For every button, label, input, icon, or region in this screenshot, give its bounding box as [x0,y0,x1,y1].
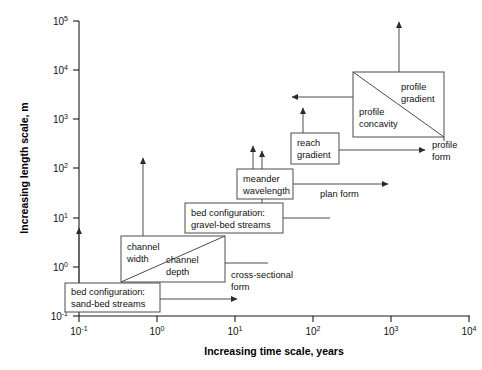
y-tick-exp-1: 4 [64,64,68,71]
x-tick-exp-0: -1 [81,325,87,332]
box-profile-gradient-line1: profile [401,82,426,92]
svg-text:104: 104 [53,64,68,76]
y-tick-exp-4: 1 [64,212,68,219]
svg-text:102: 102 [53,162,68,174]
box-sand-bed-streams[interactable]: bed configuration: sand-bed streams [65,283,160,312]
y-tick-exp-5: 0 [64,261,68,268]
box-gravel-bed-streams-line2: gravel-bed streams [191,220,271,230]
y-tick-base-6: 10 [51,311,63,322]
svg-text:100: 100 [149,325,164,337]
figure-container: 105 104 103 102 101 100 10-1 10-1 100 10… [0,0,482,370]
x-tick-exp-4: 3 [395,325,399,332]
x-tick-exp-1: 0 [161,325,165,332]
scale-diagram-svg: 105 104 103 102 101 100 10-1 10-1 100 10… [0,0,482,370]
svg-text:10-1: 10-1 [70,325,87,337]
x-tick-base-4: 10 [383,326,395,337]
x-tick-base-5: 10 [461,326,473,337]
annotation-cross-sectional-form-line1: cross-sectional [231,270,293,280]
box-sand-bed-streams-line2: sand-bed streams [71,299,146,309]
box-profile[interactable]: profile gradient profile concavity [353,72,444,137]
y-tick-base-4: 10 [53,213,65,224]
annotation-plan-form-line1: plan form [320,189,359,199]
y-tick-exp-0: 5 [64,15,68,22]
y-tick-base-1: 10 [53,65,65,76]
box-channel-depth-line1: channel [166,255,199,265]
box-profile-concavity-line1: profile [359,107,384,117]
box-reach-gradient-line1: reach [297,138,320,148]
x-tick-base-0: 10 [70,326,82,337]
y-axis-title: Increasing length scale, m [18,102,30,233]
y-tick-base-5: 10 [53,262,65,273]
x-tick-base-1: 10 [149,326,161,337]
annotation-plan-form: plan form [320,189,359,199]
svg-text:101: 101 [227,325,242,337]
box-gravel-bed-streams[interactable]: bed configuration: gravel-bed streams [185,203,283,233]
box-meander-wavelength-line1: meander [243,174,280,184]
svg-text:103: 103 [53,113,68,125]
y-tick-base-2: 10 [53,114,65,125]
annotation-cross-sectional-form: cross-sectional form [231,270,293,292]
y-axis-tick-labels: 105 104 103 102 101 100 10-1 [51,15,68,322]
x-tick-base-2: 10 [227,326,239,337]
svg-text:100: 100 [53,261,68,273]
box-profile-concavity-line2: concavity [359,119,398,129]
annotation-profile-form-line2: form [432,152,451,162]
annotation-profile-form: profile form [432,140,457,162]
y-tick-exp-2: 3 [64,113,68,120]
annotation-profile-form-line1: profile [432,140,457,150]
x-tick-exp-5: 4 [473,325,477,332]
y-tick-base-3: 10 [53,163,65,174]
y-tick-base-0: 10 [53,16,65,27]
x-axis-title: Increasing time scale, years [204,345,344,357]
box-reach-gradient-line2: gradient [297,150,331,160]
box-reach-gradient[interactable]: reach gradient [291,133,339,164]
x-axis-tick-labels: 10-1 100 101 102 103 104 [70,325,476,337]
x-tick-base-3: 10 [305,326,317,337]
y-tick-exp-3: 2 [64,162,68,169]
x-tick-exp-2: 1 [239,325,243,332]
svg-text:104: 104 [461,325,476,337]
box-channel[interactable]: channel width channel depth [121,236,225,282]
svg-text:105: 105 [53,15,68,27]
box-meander-wavelength[interactable]: meander wavelength [237,169,293,199]
box-channel-depth-line2: depth [166,267,189,277]
svg-text:102: 102 [305,325,320,337]
svg-text:103: 103 [383,325,398,337]
box-profile-gradient-line2: gradient [401,94,435,104]
box-channel-width-line1: channel [127,242,160,252]
box-meander-wavelength-line2: wavelength [242,186,290,196]
x-tick-exp-3: 2 [317,325,321,332]
x-axis-ticks [79,316,469,322]
box-gravel-bed-streams-line1: bed configuration: [191,208,265,218]
box-sand-bed-streams-line1: bed configuration: [71,287,145,297]
box-channel-width-line2: width [126,254,149,264]
svg-text:101: 101 [53,212,68,224]
annotation-cross-sectional-form-line2: form [231,282,250,292]
y-axis-ticks [73,21,79,316]
